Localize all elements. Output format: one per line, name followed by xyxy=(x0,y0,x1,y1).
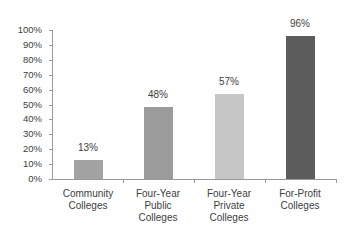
y-tick-label: 40% xyxy=(23,114,42,124)
y-tick-mark xyxy=(49,90,53,91)
category-label-line: Colleges xyxy=(53,200,123,212)
bar-value-label: 13% xyxy=(58,142,118,153)
bar xyxy=(286,36,315,179)
category-label-line: Four-Year xyxy=(194,188,264,200)
y-tick-label: 30% xyxy=(23,129,42,139)
y-tick-label: 70% xyxy=(23,70,42,80)
y-tick-label: 100% xyxy=(18,25,42,35)
y-tick-label: 50% xyxy=(23,100,42,110)
bar xyxy=(74,160,103,179)
y-tick-mark xyxy=(49,30,53,31)
y-tick-mark xyxy=(49,164,53,165)
y-tick-mark xyxy=(49,179,53,180)
category-label: Four-YearPublicColleges xyxy=(123,188,193,224)
y-tick-label: 0% xyxy=(28,174,42,184)
y-tick-mark xyxy=(49,119,53,120)
category-label-line: Private xyxy=(194,200,264,212)
category-label-line: Colleges xyxy=(194,212,264,224)
category-label-line: Colleges xyxy=(265,200,335,212)
y-tick-label: 60% xyxy=(23,85,42,95)
bar-value-label: 57% xyxy=(199,76,259,87)
category-label-line: For-Profit xyxy=(265,188,335,200)
y-tick-mark xyxy=(49,134,53,135)
x-tick-mark xyxy=(123,179,124,183)
bar-value-label: 96% xyxy=(270,18,330,29)
category-label-line: Four-Year xyxy=(123,188,193,200)
category-label: CommunityColleges xyxy=(53,188,123,212)
x-tick-mark xyxy=(194,179,195,183)
category-label-line: Colleges xyxy=(123,212,193,224)
y-tick-label: 90% xyxy=(23,40,42,50)
y-tick-label: 80% xyxy=(23,55,42,65)
y-tick-label: 10% xyxy=(23,159,42,169)
x-tick-mark xyxy=(336,179,337,183)
category-label-line: Public xyxy=(123,200,193,212)
bar-value-label: 48% xyxy=(128,89,188,100)
y-tick-mark xyxy=(49,149,53,150)
category-label: For-ProfitColleges xyxy=(265,188,335,212)
bar-chart: 0%10%20%30%40%50%60%70%80%90%100% 13%Com… xyxy=(0,0,354,243)
category-label-line: Community xyxy=(53,188,123,200)
y-tick-mark xyxy=(49,60,53,61)
y-tick-mark xyxy=(49,75,53,76)
y-tick-mark xyxy=(49,45,53,46)
y-tick-label: 20% xyxy=(23,144,42,154)
y-tick-mark xyxy=(49,105,53,106)
category-label: Four-YearPrivateColleges xyxy=(194,188,264,224)
x-tick-mark xyxy=(265,179,266,183)
bar xyxy=(215,94,244,179)
bar xyxy=(144,107,173,179)
